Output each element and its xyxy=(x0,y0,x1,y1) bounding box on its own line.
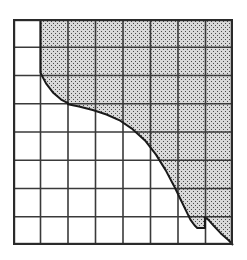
plot-svg xyxy=(13,19,233,245)
figure-root xyxy=(0,0,247,260)
plot-area xyxy=(13,19,233,245)
